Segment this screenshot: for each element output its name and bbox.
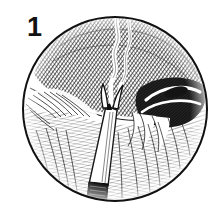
- figure-number-label: 1: [27, 14, 42, 41]
- figure-illustration: 1: [0, 0, 223, 221]
